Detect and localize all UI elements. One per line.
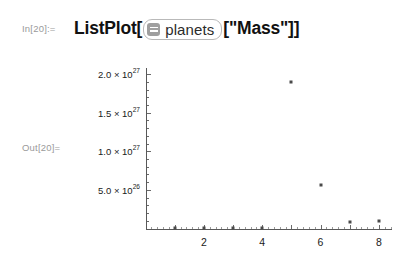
- x-axis-subminor-tick: [227, 227, 228, 229]
- x-axis-minor-tick: [350, 225, 351, 229]
- x-axis-subminor-tick: [157, 227, 158, 229]
- data-point: [261, 227, 264, 230]
- x-axis-subminor-tick: [163, 227, 164, 229]
- y-axis-minor-tick: [147, 205, 150, 206]
- x-axis-tick-label: 8: [376, 236, 382, 248]
- data-point: [348, 220, 351, 223]
- y-axis-minor-tick: [147, 144, 150, 145]
- x-axis-minor-tick: [291, 225, 292, 229]
- x-axis-subminor-tick: [303, 227, 304, 229]
- x-axis-subminor-tick: [268, 227, 269, 229]
- y-axis-minor-tick: [147, 167, 150, 168]
- x-axis-subminor-tick: [186, 227, 187, 229]
- y-axis-tick: [147, 190, 151, 191]
- x-axis-subminor-tick: [309, 227, 310, 229]
- x-axis-subminor-tick: [315, 227, 316, 229]
- y-axis-minor-tick: [147, 128, 150, 129]
- x-axis-subminor-tick: [361, 227, 362, 229]
- y-axis-minor-tick: [147, 82, 150, 83]
- x-axis-tick-label: 4: [259, 236, 265, 248]
- x-axis-subminor-tick: [239, 227, 240, 229]
- x-axis-line: [146, 229, 393, 230]
- y-axis-minor-tick: [147, 136, 150, 137]
- x-axis-subminor-tick: [286, 227, 287, 229]
- y-axis-minor-tick: [147, 159, 150, 160]
- x-axis-subminor-tick: [373, 227, 374, 229]
- data-point: [377, 219, 380, 222]
- y-axis-minor-tick: [147, 198, 150, 199]
- x-axis-subminor-tick: [338, 227, 339, 229]
- y-axis-tick: [147, 74, 151, 75]
- data-point: [290, 80, 293, 83]
- x-axis-subminor-tick: [344, 227, 345, 229]
- y-axis-minor-tick: [147, 97, 150, 98]
- x-axis-subminor-tick: [356, 227, 357, 229]
- list-plot[interactable]: 5.0 × 10261.0 × 10271.5 × 10272.0 × 1027…: [0, 0, 404, 261]
- x-axis-subminor-tick: [169, 227, 170, 229]
- x-axis-subminor-tick: [326, 227, 327, 229]
- data-point: [232, 227, 235, 230]
- y-axis-minor-tick: [147, 213, 150, 214]
- y-axis-minor-tick: [147, 174, 150, 175]
- x-axis-tick: [379, 225, 380, 229]
- x-axis-subminor-tick: [221, 227, 222, 229]
- x-axis-subminor-tick: [367, 227, 368, 229]
- y-axis-minor-tick: [147, 105, 150, 106]
- data-point: [173, 227, 176, 230]
- x-axis-subminor-tick: [151, 227, 152, 229]
- x-axis-subminor-tick: [210, 227, 211, 229]
- y-axis-tick-label: 2.0 × 1027: [76, 69, 140, 80]
- x-axis-subminor-tick: [192, 227, 193, 229]
- y-axis-tick: [147, 113, 151, 114]
- x-axis-tick-label: 2: [201, 236, 207, 248]
- y-axis-tick-label: 5.0 × 1026: [76, 184, 140, 195]
- y-axis-minor-tick: [147, 182, 150, 183]
- x-axis-subminor-tick: [245, 227, 246, 229]
- x-axis-subminor-tick: [297, 227, 298, 229]
- y-axis-tick-label: 1.5 × 1027: [76, 107, 140, 118]
- x-axis-subminor-tick: [274, 227, 275, 229]
- x-axis-subminor-tick: [280, 227, 281, 229]
- data-point: [202, 227, 205, 230]
- y-axis-minor-tick: [147, 90, 150, 91]
- y-axis-minor-tick: [147, 221, 150, 222]
- x-axis-subminor-tick: [181, 227, 182, 229]
- y-axis-minor-tick: [147, 120, 150, 121]
- x-axis-subminor-tick: [332, 227, 333, 229]
- x-axis-subminor-tick: [216, 227, 217, 229]
- data-point: [319, 183, 322, 186]
- y-axis-tick: [147, 151, 151, 152]
- x-axis-subminor-tick: [198, 227, 199, 229]
- y-axis-tick-label: 1.0 × 1027: [76, 146, 140, 157]
- x-axis-subminor-tick: [385, 227, 386, 229]
- x-axis-subminor-tick: [256, 227, 257, 229]
- x-axis-tick-label: 6: [318, 236, 324, 248]
- x-axis-subminor-tick: [251, 227, 252, 229]
- x-axis-subminor-tick: [391, 227, 392, 229]
- x-axis-tick: [321, 225, 322, 229]
